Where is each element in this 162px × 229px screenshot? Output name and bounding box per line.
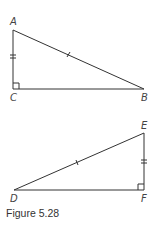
triangle-abc bbox=[10, 30, 144, 89]
triangle-def-outline bbox=[14, 133, 144, 190]
vertex-label-f: F bbox=[141, 193, 147, 204]
figure-canvas: A C B E D F bbox=[0, 0, 162, 229]
vertex-label-d: D bbox=[10, 193, 18, 204]
vertex-label-b: B bbox=[141, 92, 148, 103]
right-angle-mark-c bbox=[13, 83, 19, 89]
right-angle-mark-f bbox=[138, 184, 144, 190]
triangle-def bbox=[14, 133, 147, 190]
vertex-label-e: E bbox=[141, 120, 148, 131]
vertex-label-c: C bbox=[10, 92, 17, 103]
triangle-abc-outline bbox=[13, 30, 144, 89]
vertex-label-a: A bbox=[9, 16, 17, 27]
figure-caption: Figure 5.28 bbox=[6, 207, 59, 219]
